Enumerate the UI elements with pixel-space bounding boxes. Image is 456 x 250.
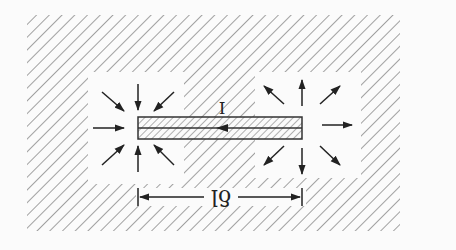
current-label: I: [219, 98, 226, 118]
current-element: [138, 117, 302, 139]
dipole-figure: I δl: [0, 0, 456, 250]
length-label: δl: [211, 185, 231, 210]
